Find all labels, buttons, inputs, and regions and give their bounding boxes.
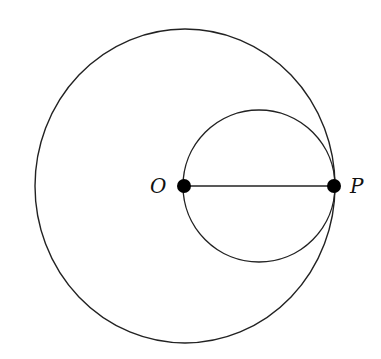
- label-o: O: [150, 174, 166, 198]
- point-o: [177, 179, 191, 193]
- label-p: P: [349, 174, 364, 198]
- point-p: [327, 179, 341, 193]
- geometry-diagram: O P: [0, 0, 381, 359]
